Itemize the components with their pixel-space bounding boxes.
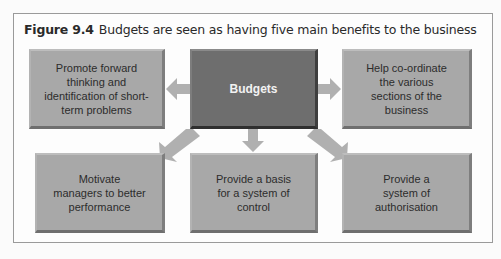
benefit-box-coordinate: Help co-ordinate the various sections of… xyxy=(342,49,472,129)
arrow-left-icon xyxy=(166,78,190,100)
benefit-box-authorisation: Provide a system of authorisation xyxy=(342,153,472,233)
benefit-label: Provide a basis for a system of control xyxy=(212,172,295,214)
benefit-box-motivate: Motivate managers to better performance xyxy=(35,153,165,233)
center-label: Budgets xyxy=(230,82,278,96)
benefit-label: Motivate managers to better performance xyxy=(53,172,146,214)
benefit-label: Promote forward thinking and identificat… xyxy=(39,61,154,117)
benefit-label: Provide a system of authorisation xyxy=(372,172,441,214)
benefit-box-control: Provide a basis for a system of control xyxy=(190,153,318,233)
center-box-budgets: Budgets xyxy=(190,49,318,129)
benefit-label: Help co-ordinate the various sections of… xyxy=(362,61,451,117)
arrow-right-icon xyxy=(317,78,341,100)
benefit-box-forward-thinking: Promote forward thinking and identificat… xyxy=(29,49,165,129)
arrow-down-icon xyxy=(242,129,264,152)
